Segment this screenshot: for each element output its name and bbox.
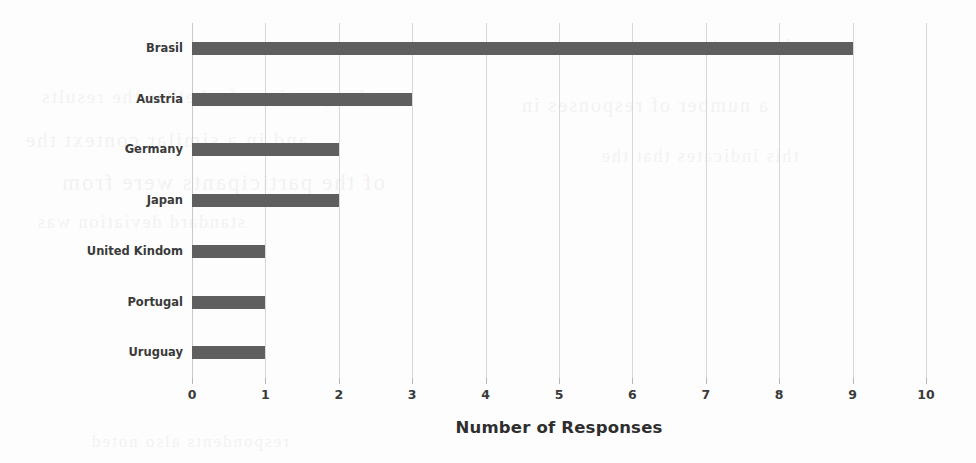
x-tick-mark [412,378,413,384]
x-tick-label: 2 [319,387,359,402]
category-label: Portugal [127,296,183,309]
x-tick-mark [632,378,633,384]
category-label: Brasil [146,42,183,55]
category-label: Uruguay [128,346,183,359]
bar-row: United Kindom [192,226,926,277]
x-tick-label: 6 [612,387,652,402]
category-label: Japan [147,194,183,207]
x-tick-label: 4 [466,387,506,402]
bar-row: Brasil [192,23,926,74]
plot-area: BrasilAustriaGermanyJapanUnited KindomPo… [192,23,926,378]
x-tick-mark [706,378,707,384]
bar[interactable] [192,143,339,156]
bar[interactable] [192,194,339,207]
category-label: Austria [136,93,183,106]
x-tick-label: 0 [172,387,212,402]
x-axis-title: Number of Responses [192,418,926,437]
x-tick-label: 9 [833,387,873,402]
category-label: Germany [125,143,183,156]
x-tick-mark [486,378,487,384]
bar[interactable] [192,346,265,359]
bar-chart: Countries BrasilAustriaGermanyJapanUnite… [0,0,976,463]
bar-row: Japan [192,175,926,226]
x-tick-mark [779,378,780,384]
x-tick-label: 10 [906,387,946,402]
x-tick-label: 8 [759,387,799,402]
x-tick-label: 3 [392,387,432,402]
gridline-10 [926,23,927,378]
x-tick-label: 5 [539,387,579,402]
category-label: United Kindom [87,245,183,258]
bar[interactable] [192,245,265,258]
bar-row: Germany [192,124,926,175]
bar[interactable] [192,296,265,309]
x-tick-mark [559,378,560,384]
x-tick-mark [926,378,927,384]
x-tick-label: 1 [245,387,285,402]
bar-row: Austria [192,74,926,125]
x-tick-label: 7 [686,387,726,402]
bar-row: Uruguay [192,327,926,378]
x-tick-mark [265,378,266,384]
x-tick-mark [192,378,193,384]
x-tick-mark [853,378,854,384]
bar[interactable] [192,42,853,55]
x-tick-mark [339,378,340,384]
bar-row: Portugal [192,277,926,328]
bar[interactable] [192,93,412,106]
